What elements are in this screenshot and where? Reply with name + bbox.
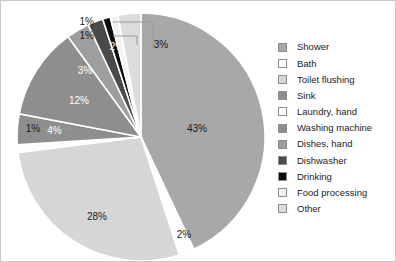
callout-value-label: 1%	[80, 16, 95, 27]
slice-value-label: 2%	[177, 229, 192, 240]
slice-value-label: 1%	[26, 123, 41, 134]
legend-item-dishwasher[interactable]: Dishwasher	[278, 152, 394, 168]
pie-chart-svg: 43%2%28%1%4%12%3%2%3%1%1%	[1, 1, 273, 262]
legend-item-label: Laundry, hand	[297, 107, 357, 117]
pie-chart-figure: 43%2%28%1%4%12%3%2%3%1%1% ShowerBathToil…	[0, 0, 396, 262]
slice-value-label: 28%	[87, 211, 107, 222]
legend-swatch-icon	[278, 43, 287, 52]
chart-legend: ShowerBathToilet flushingSinkLaundry, ha…	[278, 39, 394, 217]
slice-value-label: 43%	[187, 123, 207, 134]
legend-item-label: Food processing	[297, 188, 367, 198]
legend-item-label: Other	[297, 204, 321, 214]
legend-item-toilet-flushing[interactable]: Toilet flushing	[278, 71, 394, 87]
legend-swatch-icon	[278, 124, 287, 133]
legend-swatch-icon	[278, 75, 287, 84]
legend-item-other[interactable]: Other	[278, 201, 394, 217]
chart-plot-area: 43%2%28%1%4%12%3%2%3%1%1%	[1, 1, 273, 262]
legend-item-label: Drinking	[297, 172, 332, 182]
legend-swatch-icon	[278, 107, 287, 116]
legend-swatch-icon	[278, 156, 287, 165]
legend-swatch-icon	[278, 59, 287, 68]
legend-swatch-icon	[278, 140, 287, 149]
pie-slice-group	[17, 13, 265, 261]
legend-item-bath[interactable]: Bath	[278, 55, 394, 71]
callout-value-label: 1%	[80, 30, 95, 41]
legend-item-label: Toilet flushing	[297, 75, 355, 85]
legend-item-sink[interactable]: Sink	[278, 88, 394, 104]
legend-item-shower[interactable]: Shower	[278, 39, 394, 55]
legend-item-washing-machine[interactable]: Washing machine	[278, 120, 394, 136]
legend-item-label: Bath	[297, 59, 317, 69]
legend-item-label: Sink	[297, 91, 315, 101]
slice-value-label: 3%	[154, 39, 169, 50]
legend-item-dishes-hand[interactable]: Dishes, hand	[278, 136, 394, 152]
legend-item-label: Shower	[297, 42, 329, 52]
legend-swatch-icon	[278, 188, 287, 197]
slice-value-label: 2%	[110, 41, 125, 52]
legend-item-food-processing[interactable]: Food processing	[278, 185, 394, 201]
legend-item-label: Dishwasher	[297, 156, 347, 166]
slice-value-label: 12%	[69, 95, 89, 106]
legend-item-label: Washing machine	[297, 123, 372, 133]
legend-item-label: Dishes, hand	[297, 139, 352, 149]
legend-item-laundry-hand[interactable]: Laundry, hand	[278, 104, 394, 120]
legend-item-drinking[interactable]: Drinking	[278, 169, 394, 185]
legend-swatch-icon	[278, 204, 287, 213]
legend-swatch-icon	[278, 91, 287, 100]
legend-swatch-icon	[278, 172, 287, 181]
slice-value-label: 4%	[47, 125, 62, 136]
slice-value-label: 3%	[78, 65, 93, 76]
